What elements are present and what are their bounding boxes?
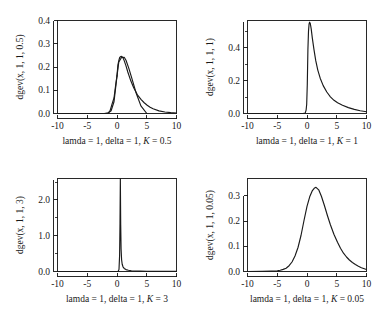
x-tick-label: 0 [115,121,120,131]
y-tick-label: 0.4 [38,16,50,26]
y-axis-title: dgev(x, 1, 1, 0.05) [205,190,216,260]
x-tick-label: -10 [51,279,64,289]
y-tick-label: 0.4 [228,43,240,53]
y-tick-label: 0.0 [228,267,240,277]
panel-bottom-right: 0.0 0.1 0.2 0.3 -10 -5 0 5 10 lamda = 1,… [190,158,379,316]
x-axis-title: lamda = 1, delta = 1, K = 3 [66,294,168,304]
panel-background [190,0,379,158]
x-tick-label: -5 [83,121,91,131]
x-tick-label: -5 [273,121,281,131]
panel-top-left: 0.0 0.1 0.2 0.3 0.4 -10 -5 0 5 10 lamda … [0,0,189,158]
x-tick-label: 10 [362,121,372,131]
panel-top-right-svg: 0.0 0.2 0.4 -10 -5 0 5 10 lamda = 1, del… [190,0,379,158]
x-tick-label: 5 [144,279,149,289]
x-tick-label: 5 [334,279,339,289]
y-tick-label: 0.0 [38,267,50,277]
y-tick-label: 1.0 [38,231,50,241]
x-tick-label: 0 [115,279,120,289]
x-tick-label: 5 [334,121,339,131]
y-tick-label: 0.1 [228,241,240,251]
x-tick-label: -10 [241,121,254,131]
y-axis-title: dgev(x, 1, 1, 3) [15,196,26,254]
y-tick-label: 0.2 [38,62,50,72]
x-tick-label: 0 [305,279,310,289]
panel-bottom-left-svg: 0.0 1.0 2.0 -10 -5 0 5 10 lamda = 1, del… [0,158,189,316]
x-axis-title: lamda = 1, delta = 1, K = 1 [256,136,358,146]
x-tick-label: 5 [144,121,149,131]
y-tick-label: 0.2 [228,76,240,86]
x-tick-label: 10 [172,279,182,289]
panel-background [0,158,189,316]
y-tick-label: 0.0 [228,109,240,119]
panel-top-right: 0.0 0.2 0.4 -10 -5 0 5 10 lamda = 1, del… [190,0,379,158]
x-tick-label: -10 [51,121,64,131]
x-tick-label: 10 [362,279,372,289]
x-tick-label: 0 [305,121,310,131]
x-tick-label: -10 [241,279,254,289]
y-tick-label: 0.0 [38,109,50,119]
panel-background [0,0,189,158]
x-axis-title: lamda = 1, delta = 1, K = 0.05 [250,294,364,304]
x-axis-title: lamda = 1, delta = 1, K = 0.5 [62,136,171,146]
panel-top-left-svg: 0.0 0.1 0.2 0.3 0.4 -10 -5 0 5 10 lamda … [0,0,189,158]
x-tick-label: 10 [172,121,182,131]
panel-background [190,158,379,316]
y-tick-label: 0.1 [38,85,50,95]
y-axis-title: dgev(x, 1, 1, 1) [205,38,216,96]
y-axis-title: dgev(x, 1, 1, 0.5) [15,34,26,99]
y-tick-label: 0.2 [228,216,240,226]
panel-bottom-right-svg: 0.0 0.1 0.2 0.3 -10 -5 0 5 10 lamda = 1,… [190,158,379,316]
y-tick-label: 0.3 [38,39,50,49]
y-tick-label: 2.0 [38,195,50,205]
panel-bottom-left: 0.0 1.0 2.0 -10 -5 0 5 10 lamda = 1, del… [0,158,189,316]
figure-gev-density-grid: 0.0 0.1 0.2 0.3 0.4 -10 -5 0 5 10 lamda … [0,0,379,316]
y-tick-label: 0.3 [228,191,240,201]
x-tick-label: -5 [273,279,281,289]
x-tick-label: -5 [83,279,91,289]
